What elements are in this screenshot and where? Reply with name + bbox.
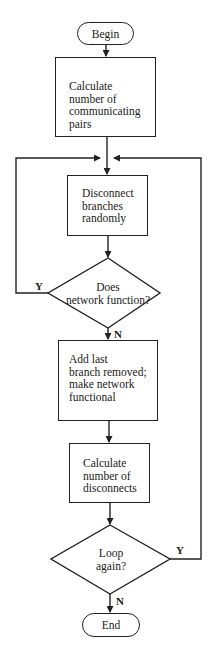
terminal-end-label: End [102, 619, 121, 631]
terminal-begin-label: Begin [92, 28, 119, 40]
label-yes-loop-again: Y [176, 544, 184, 556]
process-add-last-branch: Add last branch removed; make network fu… [58, 340, 158, 421]
label-no-loop-again: N [116, 595, 124, 607]
process-calculate-communicating-pairs: Calculate number of communicating pairs [55, 57, 156, 137]
process-add-last-branch-label: Add last branch removed; make network fu… [69, 353, 157, 403]
process-calculate-disconnects: Calculate number of disconnects [69, 443, 150, 503]
process-disconnect-branches-label: Disconnect branches randomly [82, 187, 147, 225]
process-disconnect-branches: Disconnect branches randomly [67, 175, 148, 236]
decision-does-network-function-label: Does network function? [66, 281, 150, 307]
process-calculate-communicating-pairs-label: Calculate number of communicating pairs [69, 80, 155, 130]
decision-loop-again-label: Loop again? [96, 547, 126, 573]
process-calculate-disconnects-label: Calculate number of disconnects [83, 457, 149, 495]
label-yes-network-functions: Y [35, 280, 43, 292]
terminal-end: End [82, 613, 140, 637]
label-no-network-functions: N [114, 328, 122, 340]
terminal-begin: Begin [77, 22, 134, 45]
